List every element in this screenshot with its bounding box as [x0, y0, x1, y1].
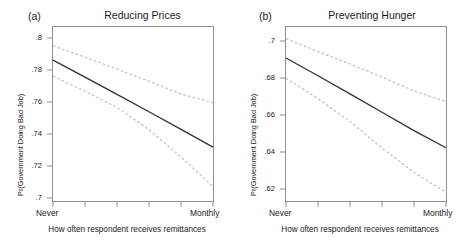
panel-a-xtick-monthly: Monthly — [190, 208, 219, 218]
panel-b-xtick-monthly: Monthly — [423, 208, 452, 218]
figure-two-panel-plot: (a) Reducing Prices Pr(Government Doing … — [0, 0, 471, 244]
panel-a-xtick-never: Never — [36, 208, 58, 218]
panel-a-fit-line — [53, 60, 213, 147]
panel-b-upper-ci-line — [286, 39, 446, 102]
panel-a-lower-ci-line — [53, 76, 213, 186]
panel-b-xtick-never: Never — [269, 208, 291, 218]
panel-b: (b) Preventing Hunger Pr(Government Doin… — [235, 0, 470, 244]
panel-a-upper-ci-line — [53, 46, 213, 103]
panel-b-x-axis-label: How often respondent receives remittance… — [255, 225, 465, 234]
panel-a-x-axis-label: How often respondent receives remittance… — [22, 225, 232, 234]
panel-a: (a) Reducing Prices Pr(Government Doing … — [0, 0, 235, 244]
